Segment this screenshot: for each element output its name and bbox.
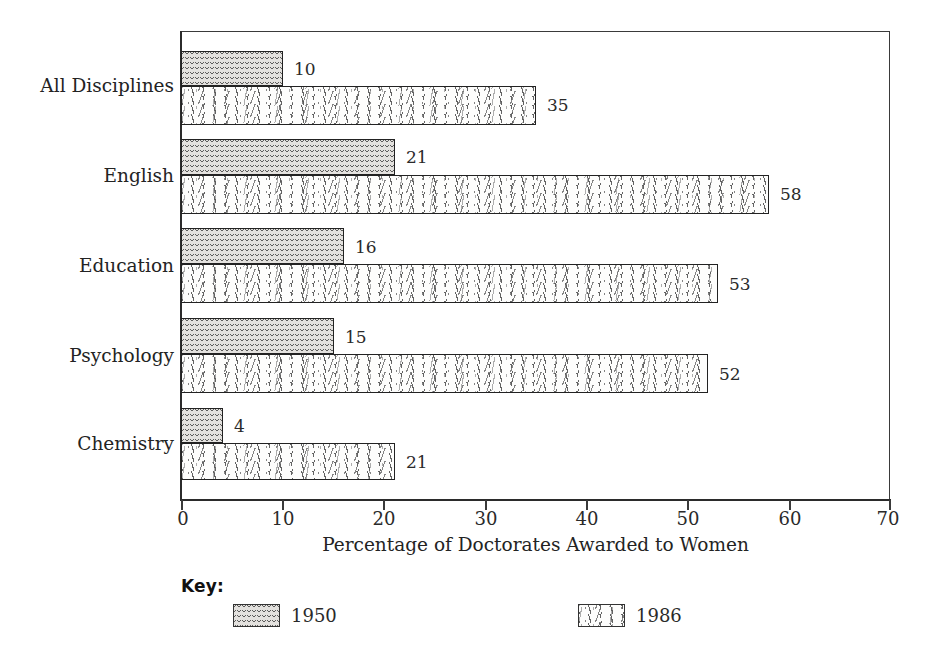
bar-education-1950[interactable] <box>181 228 344 264</box>
x-tick-label-30: 30 <box>475 510 498 528</box>
x-axis-line <box>181 499 891 501</box>
legend-label-1950: 1950 <box>291 607 337 625</box>
x-tick-label-20: 20 <box>373 510 396 528</box>
bar-all-disciplines-1950[interactable] <box>181 51 283 86</box>
legend-label-1986: 1986 <box>636 607 682 625</box>
legend-swatch-1986-dashes <box>578 604 625 627</box>
bar-chemistry-1986[interactable] <box>181 443 395 480</box>
chart-canvas: All Disciplines English Education Psycho… <box>0 0 946 662</box>
category-label-all-disciplines: All Disciplines <box>40 77 174 96</box>
category-label-english: English <box>103 167 174 186</box>
bar-psychology-1986[interactable] <box>181 354 708 393</box>
x-axis-title: Percentage of Doctorates Awarded to Wome… <box>181 536 890 555</box>
x-tick-label-40: 40 <box>576 510 599 528</box>
x-tick-label-10: 10 <box>272 510 295 528</box>
bar-value-chemistry-1950: 4 <box>234 418 245 435</box>
legend-title: Key: <box>181 576 224 596</box>
category-label-psychology: Psychology <box>69 347 174 366</box>
bar-english-1986[interactable] <box>181 175 769 214</box>
category-label-education: Education <box>79 257 174 276</box>
x-tick-label-50: 50 <box>677 510 700 528</box>
bar-english-1950[interactable] <box>181 139 395 175</box>
bar-value-psychology-1950: 15 <box>345 329 367 346</box>
x-tick-label-70: 70 <box>877 510 900 528</box>
bar-all-disciplines-1986[interactable] <box>181 86 536 125</box>
bar-value-education-1986: 53 <box>729 276 751 293</box>
bar-value-english-1986: 58 <box>780 186 802 203</box>
bar-value-psychology-1986: 52 <box>719 366 741 383</box>
bar-psychology-1950[interactable] <box>181 318 334 354</box>
bar-value-english-1950: 21 <box>406 149 428 166</box>
bar-value-all-disciplines-1950: 10 <box>294 61 316 78</box>
category-label-chemistry: Chemistry <box>77 435 174 454</box>
bar-value-education-1950: 16 <box>355 239 377 256</box>
bar-value-chemistry-1986: 21 <box>406 454 428 471</box>
bar-education-1986[interactable] <box>181 264 718 303</box>
x-tick-label-60: 60 <box>779 510 802 528</box>
category-axis-labels: All Disciplines English Education Psycho… <box>0 0 174 500</box>
bar-chemistry-1950[interactable] <box>181 408 223 443</box>
bar-value-all-disciplines-1986: 35 <box>547 97 569 114</box>
legend-swatch-1950-crosshatch <box>233 604 280 627</box>
x-tick-label-0: 0 <box>177 510 188 528</box>
